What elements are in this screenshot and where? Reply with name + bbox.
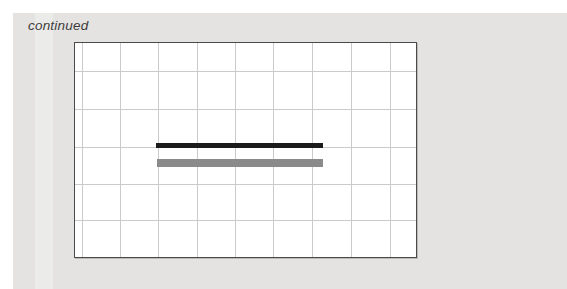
lower-gray-bar [157, 159, 323, 167]
grid-line-vertical [351, 43, 352, 257]
grid-line-vertical [82, 43, 83, 257]
grid-line-vertical [158, 43, 159, 257]
grid-line-vertical [390, 43, 391, 257]
grid-line-vertical [312, 43, 313, 257]
continued-note: continued [28, 18, 88, 33]
grid-line-vertical [197, 43, 198, 257]
grid-line-horizontal [75, 109, 416, 110]
grid-line-horizontal [75, 257, 416, 258]
grid-line-vertical [235, 43, 236, 257]
grid-line-horizontal [75, 184, 416, 185]
figure-plot-area [74, 42, 417, 258]
grid-line-vertical [273, 43, 274, 257]
scanned-page: continued [0, 0, 567, 289]
grid-line-horizontal [75, 71, 416, 72]
grid-line-horizontal [75, 220, 416, 221]
upper-black-bar [156, 143, 323, 148]
grid-line-vertical [120, 43, 121, 257]
